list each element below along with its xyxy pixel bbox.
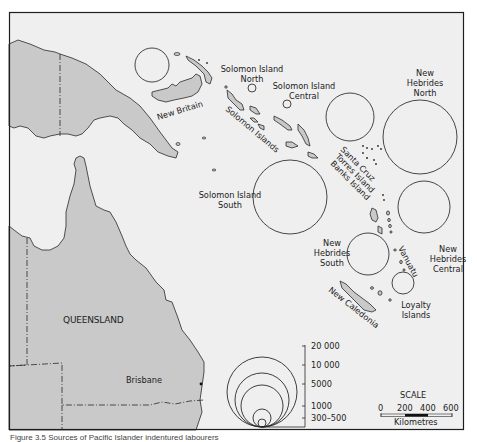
- pacific-labour-map: Solomon IslandNorthSolomon IslandCentral…: [0, 0, 477, 442]
- brisbane-marker: [200, 383, 203, 386]
- label-brisbane: Brisbane: [126, 375, 162, 385]
- scale-title: SCALE: [400, 390, 426, 400]
- scale-tick-200: 200: [397, 403, 413, 413]
- islet: [174, 53, 180, 56]
- legend-value-1000: 1000: [311, 401, 332, 411]
- islet: [206, 62, 208, 64]
- islet: [176, 143, 180, 146]
- legend-value-20000: 20 000: [311, 341, 340, 351]
- scale-unit: Kilometres: [394, 417, 438, 427]
- legend-value-300-500: 300–500: [311, 413, 346, 423]
- islet: [212, 169, 216, 171]
- legend-value-10000: 10 000: [311, 360, 340, 370]
- figure-caption: Figure 3.5 Sources of Pacific Islander i…: [10, 433, 219, 442]
- islet: [202, 137, 206, 139]
- islet: [198, 59, 200, 61]
- legend-value-5000: 5000: [311, 379, 332, 389]
- label-loyalty-islands: LoyaltyIslands: [401, 300, 431, 320]
- scale-tick-400: 400: [420, 403, 436, 413]
- label-queensland: QUEENSLAND: [63, 315, 124, 325]
- scale-tick-0: 0: [378, 403, 383, 413]
- scale-tick-600: 600: [443, 403, 459, 413]
